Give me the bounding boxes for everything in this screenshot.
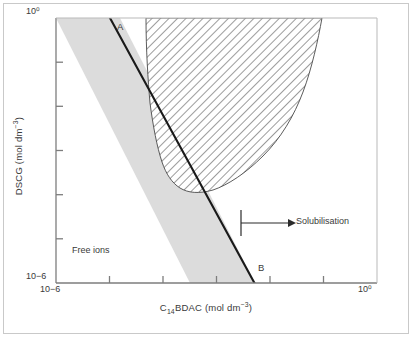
label-line-b: B [258,262,264,273]
y-axis-title: DSCG (mol dm−3) [12,86,24,226]
x-axis-min-tick-label: 10−6 [40,284,60,294]
y-axis-max-tick-label: 10⁰ [26,6,40,16]
phase-diagram-plot [0,0,412,337]
label-free-ions: Free ions [72,245,110,255]
x-axis-max-tick-label: 10⁰ [358,284,372,294]
x-axis-title: C14BDAC (mol dm−3) [0,301,412,315]
label-line-a: A [117,21,123,32]
y-axis-min-tick-label: 10−6 [26,271,46,281]
label-solubilisation: Solubilisation [296,216,349,226]
figure-container: 10⁰ 10−6 10−6 10⁰ C14BDAC (mol dm−3) DSC… [0,0,412,337]
